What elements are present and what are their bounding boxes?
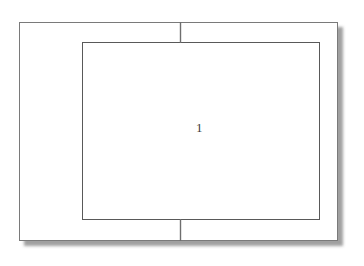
figure-canvas: 1 bbox=[0, 0, 364, 266]
figure-drawing bbox=[0, 0, 364, 266]
reference-numeral-1: 1 bbox=[196, 121, 203, 134]
